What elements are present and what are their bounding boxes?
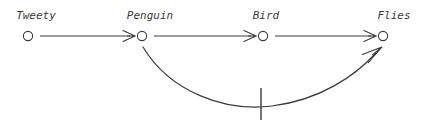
node-flies[interactable]: Flies — [377, 9, 410, 41]
edge-tweety-penguin[interactable] — [40, 31, 135, 42]
diagram-canvas: Tweety Penguin Bird Flies — [0, 0, 424, 126]
edge-penguin-flies-negated[interactable] — [143, 47, 382, 107]
node-circle-flies[interactable] — [378, 31, 387, 40]
node-circle-tweety[interactable] — [23, 31, 32, 40]
arrowhead-penguin-flies — [362, 47, 382, 63]
edge-bird-flies[interactable] — [275, 31, 376, 42]
edges-layer — [40, 31, 382, 107]
node-label-tweety: Tweety — [16, 9, 56, 22]
edge-curve-penguin-flies — [143, 47, 376, 107]
node-label-bird: Bird — [253, 9, 280, 22]
edge-penguin-bird[interactable] — [154, 31, 256, 42]
inheritance-network-figure: Tweety Penguin Bird Flies — [0, 0, 424, 126]
node-label-penguin: Penguin — [127, 9, 173, 22]
node-circle-bird[interactable] — [258, 31, 267, 40]
node-label-flies: Flies — [377, 9, 410, 22]
node-circle-penguin[interactable] — [137, 31, 146, 40]
